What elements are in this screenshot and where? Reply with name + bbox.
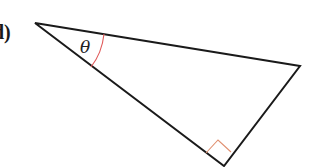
right-angle-marker-icon xyxy=(206,140,231,153)
triangle-figure: θ xyxy=(0,0,318,167)
angle-theta-label: θ xyxy=(80,37,90,57)
diagram-canvas: d) θ xyxy=(0,0,318,167)
angle-arc-icon xyxy=(91,34,104,67)
triangle xyxy=(35,23,300,166)
